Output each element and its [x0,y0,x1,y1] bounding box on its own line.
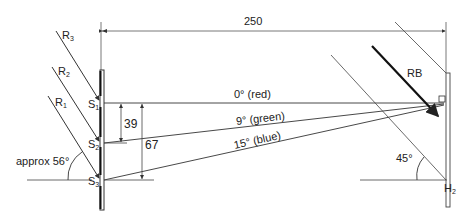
dimension-250 [101,22,446,73]
guide-lines-45 [331,22,447,180]
ray-r3-label: R3 [62,30,74,42]
hologram-angle-label: 45° [396,153,413,164]
reference-beam-label: RB [407,68,422,79]
ray-r2-label: R2 [58,66,70,78]
incident-angle-label: approx 56° [16,156,69,167]
beam-red-label: 0° (red) [234,89,271,100]
spacing-67-label: 67 [145,139,158,151]
dimension-67 [140,104,144,179]
hologram-h2-label: H2 [444,183,456,195]
slit-plate [100,70,104,210]
distance-label: 250 [244,16,262,27]
ray-r1-label: R1 [55,97,67,109]
slit-s2-label: S2 [88,139,99,151]
slit-s3-label: S3 [88,176,99,188]
optical-setup-diagram: 250 R3 R2 R1 S1 S2 S3 39 67 approx 56° 0… [0,0,469,215]
reference-beam [372,46,438,116]
dimension-39 [119,104,123,142]
slit-s1-label: S1 [88,99,99,111]
spacing-39-label: 39 [124,118,137,130]
